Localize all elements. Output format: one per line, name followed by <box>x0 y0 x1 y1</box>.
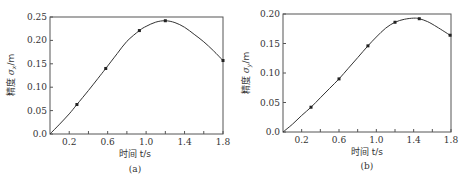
chart-a-markers <box>75 19 224 106</box>
chart-b-plot: 0.20.61.01.41.80.00.050.100.150.20 精度 σy… <box>232 0 467 185</box>
data-point-marker <box>418 17 421 20</box>
chart-b-xlabel: 时间 t/s <box>351 146 383 157</box>
y-tick-label: 0.05 <box>27 106 47 116</box>
chart-a-ylabel: 精度 σx/m <box>5 54 17 96</box>
plot-frame <box>283 14 451 132</box>
x-tick-label: 0.2 <box>295 135 309 145</box>
y-tick-label: 0.10 <box>260 68 280 78</box>
x-tick-label: 1.4 <box>407 135 422 145</box>
data-point-marker <box>394 21 397 24</box>
x-tick-label: 1.8 <box>444 135 459 145</box>
data-point-marker <box>164 19 167 22</box>
chart-b-markers <box>310 17 452 109</box>
x-tick-label: 1.4 <box>177 137 192 147</box>
plot-frame <box>50 17 223 134</box>
x-tick-label: 0.2 <box>62 137 76 147</box>
x-tick-label: 0.6 <box>332 135 347 145</box>
chart-a-plot: 0.20.61.01.41.80.00.050.100.150.200.25 精… <box>0 0 232 185</box>
y-tick-label: 0.05 <box>260 98 280 108</box>
data-point-marker <box>310 106 313 109</box>
y-tick-label: 0.20 <box>27 35 47 45</box>
data-point-marker <box>449 34 452 37</box>
y-tick-label: 0.10 <box>27 82 47 92</box>
chart-b-caption: (b) <box>361 161 374 171</box>
data-point-marker <box>366 44 369 47</box>
data-point-marker <box>75 103 78 106</box>
y-tick-label: 0.25 <box>27 12 47 22</box>
x-tick-label: 1.0 <box>139 137 154 147</box>
data-point-marker <box>104 67 107 70</box>
x-tick-label: 0.6 <box>101 137 116 147</box>
data-point-marker <box>222 59 225 62</box>
chart-a-curve <box>50 21 223 134</box>
y-tick-label: 0.20 <box>260 9 280 19</box>
y-tick-label: 0.0 <box>266 127 281 137</box>
chart-b-ylabel: 精度 σy/m <box>240 52 253 94</box>
x-tick-label: 1.0 <box>369 135 384 145</box>
data-point-marker <box>338 77 341 80</box>
y-tick-label: 0.15 <box>27 59 47 69</box>
y-tick-label: 0.15 <box>260 39 280 49</box>
y-tick-label: 0.0 <box>33 129 48 139</box>
chart-a-xlabel: 时间 t/s <box>119 148 151 159</box>
chart-panel-a: 0.20.61.01.41.80.00.050.100.150.200.25 精… <box>0 0 232 185</box>
chart-b-axes: 0.20.61.01.41.80.00.050.100.150.20 <box>260 9 458 145</box>
data-point-marker <box>138 29 141 32</box>
chart-b-curve <box>283 18 450 132</box>
chart-panel-b: 0.20.61.01.41.80.00.050.100.150.20 精度 σy… <box>232 0 467 185</box>
x-tick-label: 1.8 <box>216 137 231 147</box>
chart-a-caption: (a) <box>129 164 141 174</box>
